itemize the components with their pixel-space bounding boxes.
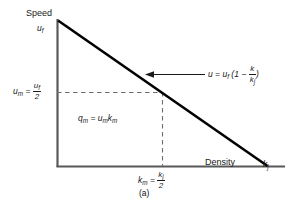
y-midpoint-label: um = uf 2 bbox=[13, 81, 41, 102]
x-intercept-label: kj bbox=[263, 160, 269, 169]
x-midpoint-fraction: kj 2 bbox=[157, 170, 164, 191]
y-midpoint-denominator: 2 bbox=[33, 92, 41, 102]
x-midpoint-numerator-subscript: j bbox=[162, 173, 163, 180]
x-intercept-subscript: j bbox=[267, 163, 268, 170]
equation-denominator: kj bbox=[249, 75, 256, 85]
equation-denominator-subscript: j bbox=[254, 78, 255, 85]
equation-close-paren: ) bbox=[256, 69, 259, 79]
curve-equation-label: u = uf (1 − k kj ) bbox=[208, 64, 259, 85]
equation-uf-subscript: f bbox=[227, 73, 229, 80]
equation-lhs: u bbox=[208, 69, 213, 79]
equation-fraction: k kj bbox=[249, 64, 256, 85]
y-midpoint-equals: = bbox=[25, 86, 30, 96]
y-midpoint-subscript: m bbox=[18, 90, 23, 97]
x-axis-title: Density bbox=[205, 158, 235, 167]
flow-equals: = bbox=[90, 113, 95, 123]
x-midpoint-denominator: 2 bbox=[157, 181, 164, 191]
equation-equals: = bbox=[215, 69, 220, 79]
flow-subscript: m bbox=[83, 117, 88, 124]
x-midpoint-subscript: m bbox=[142, 179, 147, 186]
flow-speed-symbol: u bbox=[98, 113, 103, 123]
y-midpoint-numerator: uf bbox=[33, 81, 41, 92]
figure-caption: (a) bbox=[139, 189, 149, 198]
y-axis-title: Speed bbox=[26, 9, 52, 18]
flow-speed-subscript: m bbox=[103, 117, 108, 124]
flow-equation-label: qm = umkm bbox=[78, 114, 117, 123]
y-midpoint-fraction: uf 2 bbox=[33, 81, 41, 102]
flow-density-subscript: m bbox=[112, 117, 117, 124]
equation-minus: − bbox=[241, 69, 246, 79]
x-midpoint-equals: = bbox=[150, 175, 155, 185]
equation-numerator: k bbox=[249, 64, 256, 75]
y-midpoint-numerator-subscript: f bbox=[38, 84, 40, 91]
equation-open-paren: (1 bbox=[231, 69, 239, 79]
y-intercept-subscript: f bbox=[42, 27, 44, 34]
x-midpoint-numerator: kj bbox=[157, 170, 164, 181]
annotation-arrow bbox=[145, 71, 205, 78]
y-intercept-label: uf bbox=[37, 24, 44, 33]
